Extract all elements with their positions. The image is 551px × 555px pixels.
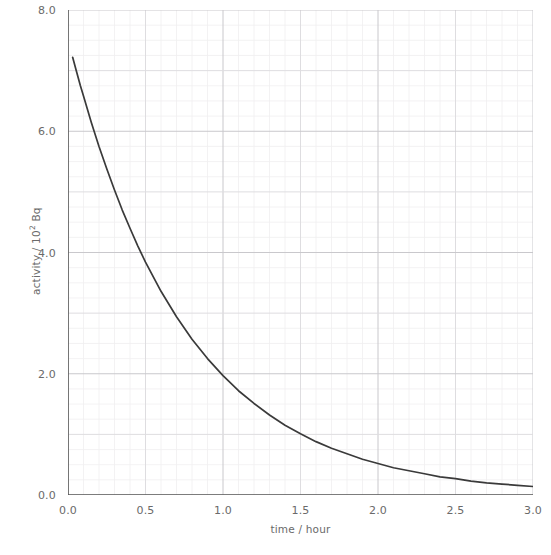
x-tick-label: 1.0	[214, 504, 232, 517]
y-tick-label: 8.0	[38, 4, 56, 17]
plot-canvas	[68, 10, 533, 495]
y-tick-label: 2.0	[38, 367, 56, 380]
x-tick-label: 2.0	[369, 504, 387, 517]
chart-figure: 0.02.04.06.08.0 0.00.51.01.52.02.53.0 ac…	[0, 0, 551, 555]
x-tick-label: 3.0	[524, 504, 542, 517]
plot-area	[68, 10, 533, 495]
x-tick-label: 1.5	[291, 504, 309, 517]
activity-decay-curve	[73, 57, 533, 486]
x-axis-title: time / hour	[270, 523, 330, 535]
y-tick-label: 6.0	[38, 125, 56, 138]
major-gridlines	[68, 10, 533, 495]
x-tick-label: 0.0	[59, 504, 77, 517]
y-axis-title: activity / 102 Bq	[28, 207, 42, 295]
x-tick-label: 2.5	[446, 504, 464, 517]
x-tick-label: 0.5	[136, 504, 154, 517]
y-tick-label: 0.0	[38, 489, 56, 502]
